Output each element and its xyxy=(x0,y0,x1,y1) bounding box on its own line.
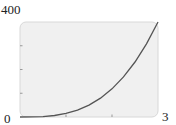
plot-area xyxy=(20,22,158,117)
chart-plot xyxy=(0,0,176,125)
